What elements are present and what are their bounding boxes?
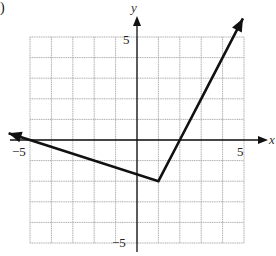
x-tick-neg5: −5 — [12, 144, 26, 159]
axes — [10, 16, 268, 252]
x-axis-arrow-icon — [258, 136, 268, 144]
left-arrowhead-icon — [9, 132, 23, 142]
y-tick-5: 5 — [123, 32, 130, 47]
y-tick-neg5: −5 — [112, 235, 126, 250]
coordinate-plane-chart: x y −5 5 5 −5 — [0, 0, 276, 256]
y-axis-label: y — [129, 0, 137, 15]
y-axis-arrow-icon — [133, 16, 141, 26]
x-tick-5: 5 — [237, 144, 244, 159]
x-axis-label: x — [268, 132, 275, 147]
